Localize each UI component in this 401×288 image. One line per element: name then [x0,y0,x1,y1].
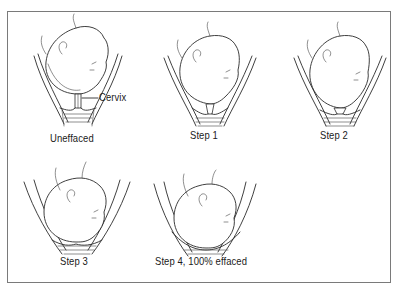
label-step2: Step 2 [320,129,348,141]
label-step1: Step 1 [190,129,218,141]
panel-step1-illustration [160,22,260,132]
panel-uneffaced-illustration [28,14,128,134]
callout-cervix: Cervix [99,91,126,103]
panel-step3-illustration [22,162,132,257]
label-step4: Step 4, 100% effaced [155,255,247,267]
panel-step4-illustration [150,170,260,258]
panel-step2-illustration [290,22,390,132]
label-step3: Step 3 [60,255,88,267]
label-uneffaced: Uneffaced [50,132,94,144]
